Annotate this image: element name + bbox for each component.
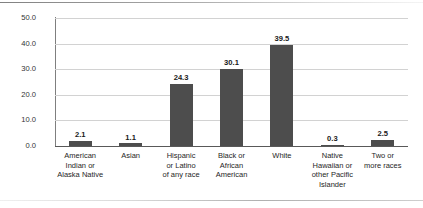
bar-value-label: 30.1 bbox=[212, 58, 252, 67]
bar-value-label: 24.3 bbox=[161, 73, 201, 82]
x-category-label: NativeHawaiian orother PacificIslander bbox=[305, 151, 359, 189]
bar[interactable] bbox=[170, 84, 193, 146]
x-axis-baseline bbox=[55, 146, 408, 147]
gridline bbox=[55, 18, 408, 19]
y-tick-label: 0.0 bbox=[4, 142, 36, 150]
bar[interactable] bbox=[371, 140, 394, 146]
bar-value-label: 2.1 bbox=[60, 130, 100, 139]
x-category-label: Hispanicor Latinoof any race bbox=[154, 151, 208, 180]
bar-value-label: 39.5 bbox=[262, 34, 302, 43]
page-rule-bottom bbox=[0, 200, 423, 201]
y-tick-label: 10.0 bbox=[4, 116, 36, 124]
bar-value-label: 2.5 bbox=[363, 129, 403, 138]
bar[interactable] bbox=[69, 141, 92, 146]
gridline bbox=[55, 44, 408, 45]
bar[interactable] bbox=[321, 145, 344, 146]
x-category-label: Black orAfricanAmerican bbox=[204, 151, 258, 180]
page-rule-top bbox=[0, 2, 423, 3]
bar-value-label: 1.1 bbox=[111, 133, 151, 142]
x-category-label: AmericanIndian orAlaska Native bbox=[53, 151, 107, 180]
plot-area: 0.010.020.030.040.050.0 2.11.124.330.139… bbox=[55, 18, 408, 146]
x-category-label: Two ormore races bbox=[356, 151, 410, 170]
y-tick-label: 40.0 bbox=[4, 40, 36, 48]
bar-chart-figure: Percentage of students 0.010.020.030.040… bbox=[0, 0, 423, 208]
bar[interactable] bbox=[270, 45, 293, 146]
bar[interactable] bbox=[119, 143, 142, 146]
bar-value-label: 0.3 bbox=[312, 134, 352, 143]
y-tick-label: 50.0 bbox=[4, 14, 36, 22]
bar[interactable] bbox=[220, 69, 243, 146]
y-tick-label: 30.0 bbox=[4, 65, 36, 73]
x-category-label: Asian bbox=[103, 151, 157, 161]
y-tick-label: 20.0 bbox=[4, 91, 36, 99]
x-category-label: White bbox=[255, 151, 309, 161]
